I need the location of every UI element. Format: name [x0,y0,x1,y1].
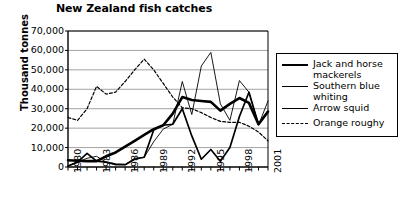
chart-legend: Jack and horse mackerelsSouthern blue wh… [276,53,398,137]
legend-item-label: Jack and horse mackerels [313,59,397,80]
legend-item-label: Southern blue whiting [313,81,397,102]
legend-item[interactable]: Orange roughy [277,118,399,129]
legend-item[interactable]: Southern blue whiting [277,81,399,102]
legend-item-label: Orange roughy [313,118,384,129]
series-line [68,97,268,161]
legend-item-label: Arrow squid [313,103,369,114]
chart-figure: New Zealand fish catches Thousand tonnes… [0,0,403,215]
series-line [68,92,268,166]
legend-line-swatch [282,118,308,129]
legend-item[interactable]: Arrow squid [277,103,399,114]
legend-line-swatch [282,59,308,70]
legend-line-swatch [282,81,308,92]
series-line [68,52,268,166]
legend-item[interactable]: Jack and horse mackerels [277,59,399,80]
legend-line-swatch [282,103,308,114]
